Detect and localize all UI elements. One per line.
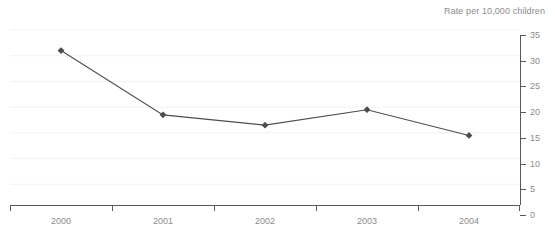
- chart-title: Rate per 10,000 children: [444, 6, 545, 16]
- x-tick: [214, 205, 215, 211]
- y-tick: [520, 86, 526, 87]
- gridlines: [10, 30, 520, 184]
- x-tick-label: 2000: [51, 217, 71, 226]
- data-point: [160, 111, 167, 118]
- y-tick-label: 5: [530, 185, 535, 194]
- y-tick: [520, 112, 526, 113]
- y-axis: 05101520253035: [520, 30, 555, 210]
- y-tick: [520, 189, 526, 190]
- y-tick-label: 0: [530, 211, 535, 220]
- y-tick-label: 30: [530, 56, 540, 65]
- x-tick-label: 2004: [459, 217, 479, 226]
- x-tick-label: 2001: [153, 217, 173, 226]
- x-tick: [112, 205, 113, 211]
- y-tick: [520, 215, 526, 216]
- x-tick: [418, 205, 419, 211]
- y-tick-label: 25: [530, 82, 540, 91]
- y-tick-label: 35: [530, 31, 540, 40]
- data-point-markers: [58, 47, 473, 139]
- y-tick: [520, 35, 526, 36]
- plot-svg: [10, 30, 520, 210]
- x-axis: 20002001200220032004: [10, 205, 520, 239]
- y-tick-label: 10: [530, 159, 540, 168]
- y-tick-label: 20: [530, 108, 540, 117]
- x-axis-line: [10, 205, 520, 206]
- x-tick-label: 2003: [357, 217, 377, 226]
- y-tick-label: 15: [530, 133, 540, 142]
- x-tick: [519, 205, 520, 211]
- line-chart: Rate per 10,000 children 05101520253035 …: [0, 0, 555, 239]
- y-tick: [520, 164, 526, 165]
- plot-area: [10, 30, 520, 210]
- x-tick: [316, 205, 317, 211]
- y-tick: [520, 138, 526, 139]
- data-point: [58, 47, 65, 54]
- x-tick-label: 2002: [255, 217, 275, 226]
- x-tick: [10, 205, 11, 211]
- data-point: [262, 122, 269, 129]
- y-tick: [520, 61, 526, 62]
